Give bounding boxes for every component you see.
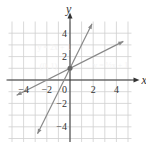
annotation-label: y = 2x + 1: [38, 43, 71, 52]
series-arrowhead: [38, 128, 42, 133]
y-tick-label: −4: [56, 121, 67, 132]
annotation-label: y = ½x + 1: [93, 61, 128, 70]
annotation-label: (0, 1): [40, 62, 58, 71]
series-arrowhead: [88, 24, 92, 29]
chart: xy−4−22442−2−40y = 2x + 1(0, 1)y = ½x + …: [0, 0, 146, 152]
x-axis-label: x: [140, 73, 146, 87]
x-tick-label: −4: [18, 84, 29, 95]
x-tick-label: −2: [41, 84, 52, 95]
intercept-point: [68, 66, 73, 71]
x-axis-arrow: [133, 78, 139, 83]
y-tick-label: 4: [62, 28, 67, 39]
x-tick-label: 4: [114, 84, 119, 95]
y-axis-label: y: [65, 2, 72, 16]
series-line: [38, 24, 93, 134]
labels: xy−4−22442−2−40y = 2x + 1(0, 1)y = ½x + …: [18, 2, 146, 133]
axes: [7, 13, 140, 143]
origin-label: 0: [62, 84, 67, 95]
y-tick-label: −2: [56, 98, 67, 109]
x-tick-label: 2: [91, 84, 96, 95]
y-tick-label: 2: [62, 51, 67, 62]
